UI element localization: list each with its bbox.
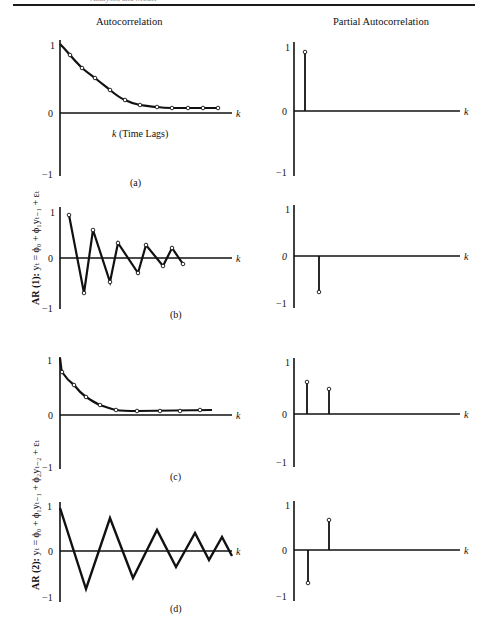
svg-text:1: 1 xyxy=(47,355,52,366)
svg-text:−1: −1 xyxy=(276,591,287,602)
panel-d-autocorrelation: 1 0 −1 k (d) xyxy=(42,501,241,615)
svg-text:−1: −1 xyxy=(42,462,53,473)
svg-text:1: 1 xyxy=(285,204,290,215)
panel-label-c: (c) xyxy=(170,471,181,483)
svg-text:−1: −1 xyxy=(276,298,287,309)
panel-label-a: (a) xyxy=(130,177,141,189)
svg-text:k: k xyxy=(464,251,469,262)
svg-text:−1: −1 xyxy=(276,167,287,178)
svg-text:0: 0 xyxy=(282,545,287,556)
panel-a-partial-autocorrelation: 1 0 −1 k xyxy=(276,42,469,178)
x-axis-label: k xyxy=(236,108,241,119)
svg-text:k: k xyxy=(464,545,469,556)
panel-c-partial-autocorrelation: 1 0 −1 k xyxy=(276,357,469,468)
panel-label-d: (d) xyxy=(170,603,182,615)
svg-text:−1: −1 xyxy=(42,303,53,314)
svg-text:0: 0 xyxy=(282,106,287,117)
svg-text:0: 0 xyxy=(48,253,53,264)
y-tick-1: 1 xyxy=(50,40,55,51)
svg-text:1: 1 xyxy=(285,357,290,368)
panel-b-autocorrelation: 1 0 −1 k (b) xyxy=(42,207,241,321)
panel-label-b: (b) xyxy=(170,309,182,321)
svg-text:0: 0 xyxy=(282,409,287,420)
svg-text:k: k xyxy=(236,410,241,421)
svg-text:1: 1 xyxy=(285,500,290,511)
svg-text:1: 1 xyxy=(285,42,290,53)
y-tick-neg1: −1 xyxy=(42,169,53,180)
svg-text:k: k xyxy=(236,253,241,264)
x-axis-description: k (Time Lags) xyxy=(112,128,168,140)
panel-d-partial-autocorrelation: 1 0 −1 k xyxy=(276,500,469,602)
svg-text:0: 0 xyxy=(48,410,53,421)
svg-text:0: 0 xyxy=(48,546,53,557)
y-tick-0: 0 xyxy=(48,108,53,119)
panel-a-autocorrelation: 1 0 −1 k k (Time Lags) (a) xyxy=(42,40,241,189)
svg-text:k: k xyxy=(464,409,469,420)
svg-text:−1: −1 xyxy=(276,457,287,468)
svg-text:1: 1 xyxy=(50,207,55,218)
svg-text:1: 1 xyxy=(47,501,52,512)
svg-text:k: k xyxy=(464,106,469,117)
panel-c-autocorrelation: 1 0 −1 k (c) xyxy=(42,355,241,483)
svg-text:k: k xyxy=(236,546,241,557)
svg-text:0: 0 xyxy=(282,251,287,262)
figure-canvas: 1 0 −1 k k (Time Lags) (a) 1 0 −1 k 1 0 … xyxy=(0,0,484,622)
svg-text:−1: −1 xyxy=(42,592,53,603)
panel-b-partial-autocorrelation: 1 0 −1 k xyxy=(276,204,469,309)
